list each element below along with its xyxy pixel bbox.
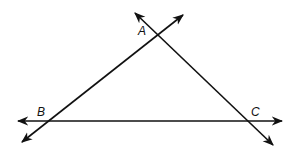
line-ac — [135, 13, 273, 145]
vertex-label-c: C — [251, 105, 260, 119]
triangle-diagram: A B C — [0, 0, 296, 150]
vertex-label-b: B — [37, 105, 45, 119]
vertex-label-a: A — [137, 24, 146, 38]
line-ab — [22, 15, 183, 142]
